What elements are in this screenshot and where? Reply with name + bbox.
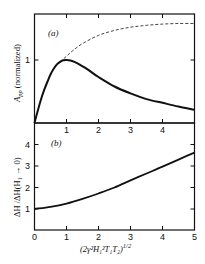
panel-b: 012345 1234 (b) ΔH /ΔH(H₁ → 0) (2γ²H₁²T₁… xyxy=(12,123,197,254)
panel-a-y-tick-label: 1 xyxy=(25,55,30,65)
panel-b-x-tick-label: 3 xyxy=(128,232,133,242)
panel-a-label: (a) xyxy=(48,28,59,38)
panel-a-x-tick-label: 2 xyxy=(96,125,101,135)
panel-a-y-ticks: 1 xyxy=(25,55,195,65)
panel-b-y-tick-label: 2 xyxy=(25,183,30,193)
panel-a-dashed-curve xyxy=(60,23,194,61)
panel-b-x-tick-label: 0 xyxy=(32,232,37,242)
panel-a-solid-curve xyxy=(35,60,195,123)
figure: 1234 1 (a) App (normalized) 012345 1234 … xyxy=(0,0,205,264)
panel-b-y-tick-label: 3 xyxy=(25,161,30,171)
panel-a: 1234 1 (a) App (normalized) xyxy=(12,14,195,135)
panel-b-y-tick-label: 1 xyxy=(25,204,30,214)
panel-b-x-tick-label: 1 xyxy=(64,232,69,242)
panel-b-y-tick-label: 4 xyxy=(25,140,30,150)
panel-a-y-axis-title: App (normalized) xyxy=(12,44,23,103)
panel-a-x-ticks: 1234 xyxy=(64,14,165,135)
panel-b-x-tick-label: 4 xyxy=(160,232,165,242)
x-axis-title: (2γ²H₁²T₁T₂)1/2 xyxy=(80,242,132,254)
x-axis-title-main: (2γ²H₁²T₁T₂) xyxy=(80,244,123,254)
panel-a-x-tick-label: 4 xyxy=(160,125,165,135)
panel-b-x-ticks: 012345 xyxy=(32,226,197,242)
panel-a-x-tick-label: 3 xyxy=(128,125,133,135)
panel-b-x-tick-label: 2 xyxy=(96,232,101,242)
x-axis-title-exp: 1/2 xyxy=(123,242,132,249)
panel-b-y-axis-title: ΔH /ΔH(H₁ → 0) xyxy=(12,157,22,217)
panel-b-label: (b) xyxy=(51,138,62,148)
panel-b-x-tick-label: 5 xyxy=(192,232,197,242)
panel-a-y-axis-rest: (normalized) xyxy=(12,44,22,90)
panel-b-solid-curve xyxy=(35,153,195,209)
panel-a-x-tick-label: 1 xyxy=(64,125,69,135)
panel-a-frame xyxy=(35,14,195,123)
panel-b-y-ticks: 1234 xyxy=(25,140,195,215)
